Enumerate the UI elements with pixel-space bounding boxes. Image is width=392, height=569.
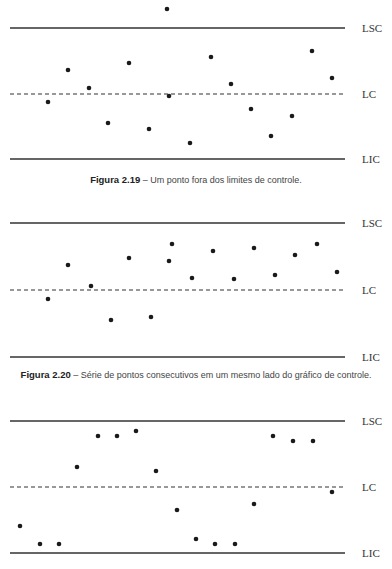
control-chart-2: LSCLCLICFigura 2.20 – Série de pontos co… [10, 217, 382, 380]
data-point [232, 277, 237, 282]
data-point [194, 537, 199, 542]
data-point [291, 439, 296, 444]
data-point [127, 61, 132, 66]
data-point [175, 508, 180, 513]
data-point [167, 94, 172, 99]
data-point [293, 253, 298, 258]
data-point [290, 114, 295, 119]
data-point [89, 284, 94, 289]
data-point [149, 315, 154, 320]
data-point [310, 49, 315, 54]
control-chart-1: LSCLCLICFigura 2.19 – Um ponto fora dos … [10, 7, 382, 185]
data-point [315, 242, 320, 247]
data-point [252, 246, 257, 251]
figure-caption: Figura 2.20 – Série de pontos consecutiv… [21, 369, 372, 380]
data-point [87, 86, 92, 91]
data-point [213, 542, 218, 547]
data-point [190, 276, 195, 281]
control-chart-3: LSCLCLIC [10, 415, 382, 559]
data-point [335, 270, 340, 275]
data-point [269, 134, 274, 139]
data-point [188, 141, 193, 146]
data-point [127, 256, 132, 261]
data-point [134, 429, 139, 434]
data-point [209, 55, 214, 60]
data-point [271, 434, 276, 439]
label-lsc: LSC [362, 415, 382, 427]
label-lic: LIC [362, 547, 380, 559]
data-point [106, 121, 111, 126]
data-point [75, 465, 80, 470]
control-charts: LSCLCLICFigura 2.19 – Um ponto fora dos … [0, 0, 392, 569]
data-point [96, 434, 101, 439]
data-point [170, 242, 175, 247]
data-point [229, 82, 234, 87]
data-point [211, 249, 216, 254]
data-point [330, 490, 335, 495]
figure-caption: Figura 2.19 – Um ponto fora dos limites … [90, 174, 302, 185]
data-point [165, 7, 170, 12]
data-point [46, 100, 51, 105]
data-point [252, 502, 257, 507]
data-point [273, 273, 278, 278]
data-point [233, 542, 238, 547]
data-point [18, 524, 23, 529]
label-lsc: LSC [362, 22, 382, 34]
data-point [147, 127, 152, 132]
data-point [330, 76, 335, 81]
data-point [109, 318, 114, 323]
data-point [115, 434, 120, 439]
label-lc: LC [362, 88, 376, 100]
data-point [46, 297, 51, 302]
label-lsc: LSC [362, 217, 382, 229]
label-lc: LC [362, 481, 376, 493]
label-lic: LIC [362, 153, 380, 165]
data-point [57, 542, 62, 547]
data-point [249, 107, 254, 112]
data-point [66, 68, 71, 73]
data-point [311, 439, 316, 444]
data-point [66, 263, 71, 268]
data-point [167, 259, 172, 264]
data-point [38, 542, 43, 547]
data-point [154, 469, 159, 474]
label-lic: LIC [362, 351, 380, 363]
label-lc: LC [362, 284, 376, 296]
